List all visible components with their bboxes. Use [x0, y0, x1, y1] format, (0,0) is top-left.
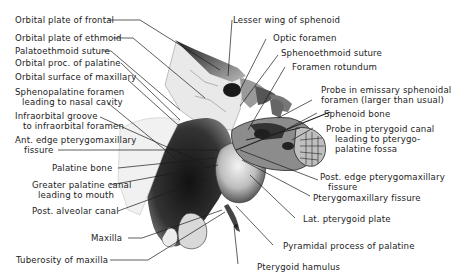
label-sphenopalatine-foramen-1: Sphenopalatine foramen: [15, 87, 124, 97]
label-probe-emissary-1: Probe in emissary sphenoidal: [321, 85, 451, 95]
label-optic-foramen: Optic foramen: [273, 33, 337, 43]
label-palatine-bone: Palatine bone: [52, 163, 112, 173]
label-probe-pterygoid-canal-2: leading to pterygo-: [335, 134, 420, 144]
label-probe-pterygoid-canal-3: palatine fossa: [335, 144, 397, 154]
label-post-edge-pterygomaxillary-1: Post. edge pterygomaxillary: [320, 172, 445, 182]
label-maxilla: Maxilla: [91, 233, 122, 243]
label-lesser-wing-sphenoid: Lesser wing of sphenoid: [233, 15, 340, 25]
label-orbital-plate-frontal: Orbital plate of frontal: [15, 15, 114, 25]
label-post-edge-pterygomaxillary-2: fissure: [328, 182, 358, 192]
label-orbital-surface-maxillary: Orbital surface of maxillary: [15, 72, 136, 82]
label-greater-palatine-canal-2: leading to mouth: [38, 190, 114, 200]
label-probe-pterygoid-canal-1: Probe in pterygoid canal: [326, 124, 434, 134]
label-palatoethmoid-suture: Palatoethmoid suture: [15, 46, 110, 56]
label-sphenoid-bone: Sphenoid bone: [324, 109, 390, 119]
label-sphenoethmoid-suture: Sphenoethmoid suture: [281, 48, 382, 58]
label-lat-pterygoid-plate: Lat. pterygoid plate: [303, 214, 391, 224]
label-pyramidal-process: Pyramidal process of palatine: [283, 241, 415, 251]
label-foramen-rotundum: Foramen rotundum: [292, 62, 377, 72]
label-probe-emissary-2: foramen (larger than usual): [321, 95, 444, 105]
label-pterygomaxillary-fissure: Pterygomaxillary fissure: [313, 193, 421, 203]
label-sphenopalatine-foramen-2: leading to nasal cavity: [22, 97, 123, 107]
label-post-alveolar-canal: Post. alveolar canal: [32, 206, 119, 216]
label-orbital-plate-ethmoid: Orbital plate of ethmoid: [15, 33, 122, 43]
label-tuberosity-maxilla: Tuberosity of maxilla: [16, 255, 108, 265]
label-infraorbital-groove-1: Infraorbital groove: [15, 111, 98, 121]
label-infraorbital-groove-2: to infraorbital foramen: [23, 121, 124, 131]
label-pterygoid-hamulus: Pterygoid hamulus: [257, 262, 340, 272]
label-ant-edge-pterygomaxillary-1: Ant. edge pterygomaxillary: [15, 135, 137, 145]
label-greater-palatine-canal-1: Greater palatine canal: [32, 180, 131, 190]
label-orbital-proc-palatine: Orbital proc. of palatine: [15, 58, 121, 68]
label-ant-edge-pterygomaxillary-2: fissure: [24, 145, 54, 155]
